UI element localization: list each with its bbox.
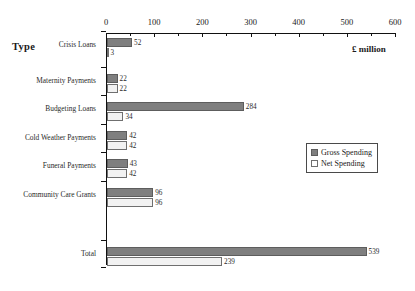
bar-value-gross-3: 42 [129, 132, 136, 140]
bar-gross-2 [107, 102, 244, 111]
category-label-5: Community Care Grants [23, 190, 96, 199]
bar-chart: Type £ million 0100200300400500600 Crisi… [0, 0, 415, 291]
x-tick-200 [202, 33, 203, 37]
bar-gross-3 [107, 131, 127, 140]
legend-swatch-gross-icon [311, 149, 318, 156]
bar-gross-4 [107, 159, 128, 168]
legend-label-gross: Gross Spending [321, 147, 372, 158]
category-label-3: Cold Weather Payments [25, 133, 96, 142]
category-label-1: Maternity Payments [36, 76, 96, 85]
x-tick-0 [106, 33, 107, 37]
x-minor-tick-450 [323, 33, 324, 36]
bar-gross-6 [107, 247, 367, 256]
y-tick-2 [101, 95, 106, 96]
bar-value-net-0: 3 [110, 49, 114, 57]
y-tick-5 [101, 181, 106, 182]
bar-value-net-2: 34 [125, 113, 132, 121]
x-tick-label-300: 300 [236, 17, 266, 27]
bar-net-3 [107, 141, 127, 150]
legend-label-net: Net Spending [321, 158, 365, 169]
x-minor-tick-250 [226, 33, 227, 36]
category-label-2: Budgeting Loans [45, 104, 96, 113]
y-tick-1 [101, 67, 106, 68]
bar-value-gross-5: 96 [155, 189, 162, 197]
y-tick-3 [101, 124, 106, 125]
x-tick-label-400: 400 [284, 17, 314, 27]
y-axis-title: Type [12, 41, 35, 52]
x-tick-label-600: 600 [380, 17, 410, 27]
bar-value-gross-0: 52 [134, 39, 141, 47]
legend-item-net: Net Spending [311, 158, 372, 169]
y-tick-6 [101, 240, 106, 241]
bar-net-4 [107, 169, 127, 178]
bar-net-5 [107, 198, 153, 207]
y-tick-0 [101, 31, 106, 32]
bar-value-gross-4: 43 [130, 160, 137, 168]
bar-value-gross-2: 284 [246, 103, 257, 111]
bar-gross-5 [107, 188, 153, 197]
x-tick-label-200: 200 [187, 17, 217, 27]
bar-net-1 [107, 84, 118, 93]
bar-value-gross-6: 539 [369, 248, 380, 256]
x-axis-label: £ million [352, 44, 386, 54]
x-tick-500 [347, 33, 348, 37]
x-tick-label-0: 0 [91, 17, 121, 27]
bar-net-6 [107, 257, 222, 266]
bar-value-net-1: 22 [120, 85, 127, 93]
bar-value-net-4: 42 [129, 170, 136, 178]
y-tick-4 [101, 152, 106, 153]
category-label-0: Crisis Loans [59, 40, 96, 49]
category-label-6: Total [81, 249, 96, 258]
legend-swatch-net-icon [311, 160, 318, 167]
x-minor-tick-150 [178, 33, 179, 36]
x-tick-400 [299, 33, 300, 37]
category-label-4: Funeral Payments [43, 161, 96, 170]
bar-value-net-3: 42 [129, 142, 136, 150]
legend-item-gross: Gross Spending [311, 147, 372, 158]
x-minor-tick-350 [275, 33, 276, 36]
x-tick-label-500: 500 [332, 17, 362, 27]
bar-net-2 [107, 112, 123, 121]
bar-value-gross-1: 22 [120, 75, 127, 83]
x-tick-300 [251, 33, 252, 37]
bar-net-0 [107, 48, 109, 57]
x-tick-600 [395, 33, 396, 37]
x-minor-tick-550 [371, 33, 372, 36]
bar-gross-0 [107, 38, 132, 47]
chart-legend: Gross Spending Net Spending [306, 143, 378, 173]
bar-value-net-6: 239 [224, 258, 235, 266]
x-tick-label-100: 100 [139, 17, 169, 27]
bar-gross-1 [107, 74, 118, 83]
x-tick-100 [154, 33, 155, 37]
bar-value-net-5: 96 [155, 199, 162, 207]
y-tick-end [101, 267, 106, 268]
x-minor-tick-50 [130, 33, 131, 36]
